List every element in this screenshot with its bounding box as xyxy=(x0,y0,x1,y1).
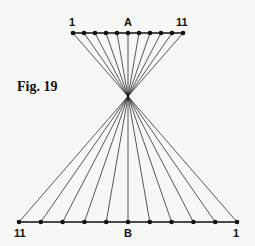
projection-ray xyxy=(63,33,161,222)
line-b-point xyxy=(148,220,153,225)
line-a-point xyxy=(159,31,164,36)
line-b-point xyxy=(104,220,109,225)
line-b-point xyxy=(126,220,131,225)
projection-ray xyxy=(73,33,237,222)
line-b-point xyxy=(213,220,218,225)
line-a-right-label: 11 xyxy=(176,17,188,28)
projection-ray xyxy=(106,33,172,222)
line-b-right-label: 1 xyxy=(233,228,239,239)
line-a-point xyxy=(148,31,153,36)
line-b-point xyxy=(235,220,240,225)
line-a-point xyxy=(82,31,87,36)
projection-ray xyxy=(84,33,215,222)
line-b-point xyxy=(169,220,174,225)
projection-ray xyxy=(41,33,172,222)
line-a-name-label: A xyxy=(124,17,132,28)
line-b-point xyxy=(60,220,65,225)
projection-ray xyxy=(106,33,139,222)
projection-ray xyxy=(19,33,183,222)
projection-ray xyxy=(117,33,150,222)
line-a-point xyxy=(104,31,109,36)
line-a-point xyxy=(115,31,120,36)
figure-caption: Fig. 19 xyxy=(17,79,57,95)
projection-lines-diagram xyxy=(0,0,255,246)
line-a-point xyxy=(170,31,175,36)
projection-ray xyxy=(84,33,150,222)
line-a-point xyxy=(181,31,186,36)
line-a-left-label: 1 xyxy=(69,17,75,28)
line-a-point xyxy=(71,31,76,36)
line-b-point xyxy=(17,220,22,225)
line-b-left-label: 11 xyxy=(14,228,26,239)
line-a-point xyxy=(137,31,142,36)
line-a-point xyxy=(126,31,131,36)
line-b-point xyxy=(39,220,44,225)
line-b-point xyxy=(82,220,87,225)
projection-ray xyxy=(95,33,193,222)
line-a-point xyxy=(93,31,98,36)
line-b-point xyxy=(191,220,196,225)
line-b-name-label: B xyxy=(124,228,132,239)
